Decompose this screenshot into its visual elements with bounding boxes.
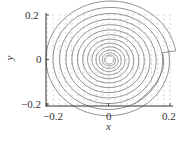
x-tick-label-right: 0.2	[162, 111, 176, 122]
y-axis-label: y	[3, 56, 15, 61]
y-tick-label-bottom: −0.2	[21, 99, 41, 110]
phase-portrait-chart: 0.2 0 −0.2 −0.2 0 0.2 x y	[0, 0, 185, 141]
y-tick-label-top: 0.2	[25, 10, 39, 21]
equilibrium-hole	[106, 57, 113, 64]
y-tick-label-mid: 0	[36, 54, 42, 65]
x-axis-label: x	[106, 120, 111, 132]
plot-area	[0, 0, 185, 141]
x-tick-label-left: −0.2	[43, 111, 63, 122]
